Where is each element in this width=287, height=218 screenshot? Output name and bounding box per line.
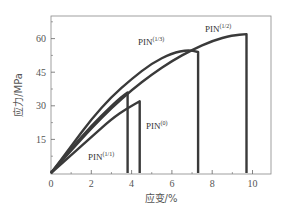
curves	[51, 34, 247, 173]
x-tick-label: 6	[169, 178, 174, 189]
curve-label: PIN(1/3)	[138, 36, 164, 47]
x-tick-label: 8	[210, 178, 215, 189]
curve-label: PIN(0)	[146, 120, 168, 131]
x-tick-label: 10	[248, 178, 258, 189]
x-tick-label: 4	[129, 178, 134, 189]
curve-label: PIN(1/1)	[88, 151, 114, 162]
x-tick-label: 0	[49, 178, 54, 189]
curve-labels: PIN(1/2)PIN(1/3)PIN(1/1)PIN(0)	[88, 23, 231, 162]
y-axis-title: 应力/MPa	[12, 73, 24, 117]
y-tick-label: 15	[36, 134, 46, 145]
y-tick-label: 60	[36, 33, 46, 44]
curve-pin-0-	[51, 101, 140, 173]
y-tick-label: 45	[36, 67, 46, 78]
x-axis-title: 应变/%	[145, 192, 178, 204]
curve-pin-1-2-	[51, 34, 247, 173]
stress-strain-chart: 024681015304560 PIN(1/2)PIN(1/3)PIN(1/1)…	[0, 0, 287, 218]
curve-label: PIN(1/2)	[205, 23, 231, 34]
x-tick-label: 2	[89, 178, 94, 189]
y-tick-label: 30	[36, 100, 46, 111]
